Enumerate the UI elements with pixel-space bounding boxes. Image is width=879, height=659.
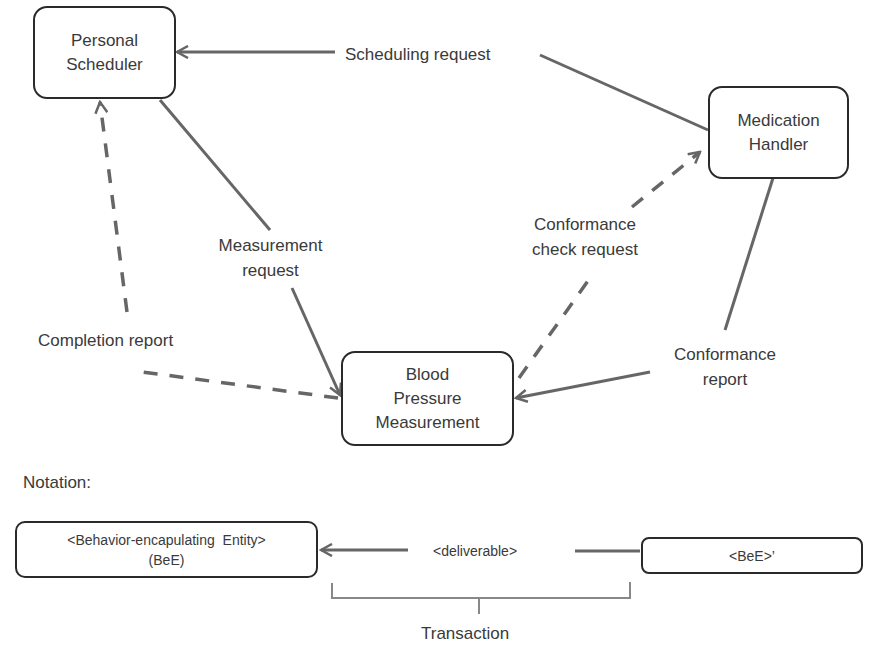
transaction-label: Transaction bbox=[421, 621, 509, 646]
label-line: Conformance bbox=[655, 342, 795, 367]
node-label-line: Handler bbox=[737, 133, 819, 157]
entity-label-line: (BeE) bbox=[67, 550, 265, 570]
completion-report-label: Completion report bbox=[38, 328, 173, 353]
entity-label-line: <Behavior-encapulating Entity> bbox=[67, 530, 265, 550]
node-label-line: Medication bbox=[737, 109, 819, 133]
node-label-line: Scheduler bbox=[66, 53, 143, 77]
conformance-report-label: Conformance report bbox=[655, 342, 795, 392]
measurement-request-label: Measurement request bbox=[198, 233, 343, 283]
conformance-check-request-label: Conformance check request bbox=[510, 212, 660, 262]
medication-handler-node: Medication Handler bbox=[708, 86, 849, 179]
node-label-line: Blood bbox=[376, 363, 480, 387]
transaction-bracket bbox=[332, 582, 630, 614]
entity-prime-label: <BeE>’ bbox=[729, 546, 775, 566]
blood-pressure-measurement-node: Blood Pressure Measurement bbox=[341, 351, 514, 446]
label-line: Measurement bbox=[198, 233, 343, 258]
label-line: report bbox=[655, 367, 795, 392]
label-line: check request bbox=[510, 237, 660, 262]
node-label-line: Measurement bbox=[376, 411, 480, 435]
scheduling-request-label: Scheduling request bbox=[345, 42, 491, 67]
deliverable-label: <deliverable> bbox=[433, 541, 517, 561]
node-label-line: Personal bbox=[66, 29, 143, 53]
notation-entity-prime-box: <BeE>’ bbox=[641, 537, 863, 574]
node-label-line: Pressure bbox=[376, 387, 480, 411]
label-line: Conformance bbox=[510, 212, 660, 237]
notation-title: Notation: bbox=[23, 470, 91, 495]
notation-entity-box: <Behavior-encapulating Entity> (BeE) bbox=[15, 521, 318, 578]
personal-scheduler-node: Personal Scheduler bbox=[33, 6, 176, 99]
label-line: request bbox=[198, 258, 343, 283]
